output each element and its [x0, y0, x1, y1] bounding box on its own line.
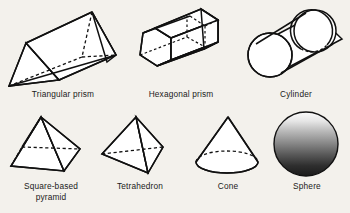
triangular-prism-icon — [4, 6, 122, 88]
shape-cone — [188, 114, 268, 176]
shape-tetrahedron — [100, 114, 180, 176]
shapes-diagram: Triangular prism — [0, 0, 350, 213]
square-based-pyramid-icon — [8, 114, 94, 176]
shape-sphere — [272, 110, 342, 180]
shape-triangular-prism — [4, 6, 122, 88]
tetrahedron-icon — [100, 114, 180, 176]
cone-icon — [188, 114, 268, 176]
hexagonal-prism-icon — [126, 6, 236, 88]
label-cone: Cone — [188, 181, 268, 192]
label-cylinder: Cylinder — [244, 89, 348, 100]
shape-hexagonal-prism — [126, 6, 236, 88]
shape-cylinder — [244, 6, 348, 88]
label-tetrahedron: Tetrahedron — [97, 181, 183, 192]
label-square-based-pyramid: Square-based pyramid — [0, 181, 102, 202]
shape-square-based-pyramid — [8, 114, 94, 176]
cylinder-icon — [244, 6, 348, 88]
sphere-icon — [272, 110, 342, 180]
label-triangular-prism: Triangular prism — [4, 89, 122, 100]
label-hexagonal-prism: Hexagonal prism — [122, 89, 240, 100]
label-sphere: Sphere — [272, 181, 342, 192]
